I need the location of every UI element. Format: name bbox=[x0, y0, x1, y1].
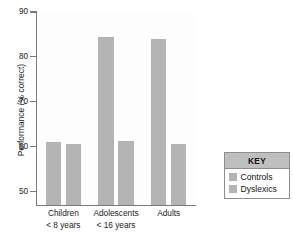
y-tick-label: 70 bbox=[10, 98, 28, 106]
bar-controls-0 bbox=[46, 142, 62, 205]
y-tick-mark bbox=[30, 146, 37, 147]
y-tick-label: 60 bbox=[10, 143, 28, 151]
legend-swatch-icon bbox=[229, 173, 237, 181]
x-axis-label-line1: Adults bbox=[157, 208, 180, 218]
bar-group-container bbox=[37, 12, 195, 205]
legend-label: Dyslexics bbox=[241, 184, 277, 194]
y-tick-label: 90 bbox=[10, 8, 28, 16]
bar-dyslexics-2 bbox=[171, 144, 187, 205]
x-axis-label-line2: < 16 years bbox=[71, 220, 161, 232]
legend-box: KEY ControlsDyslexics bbox=[224, 152, 290, 199]
y-tick-mark bbox=[30, 101, 37, 102]
legend-label: Controls bbox=[241, 172, 273, 182]
bar-controls-1 bbox=[98, 37, 114, 205]
x-axis-label-2: Adults bbox=[124, 208, 214, 220]
y-tick-mark bbox=[30, 191, 37, 192]
x-axis-line bbox=[36, 205, 196, 206]
y-tick-mark bbox=[30, 56, 37, 57]
x-axis-labels: Children< 8 yearsAdolescents< 16 yearsAd… bbox=[37, 208, 195, 236]
bar-controls-2 bbox=[151, 39, 167, 205]
legend-entries: ControlsDyslexics bbox=[225, 169, 289, 198]
y-tick-label: 80 bbox=[10, 53, 28, 61]
legend-row-controls: Controls bbox=[229, 172, 289, 182]
bar-dyslexics-1 bbox=[118, 141, 134, 205]
legend-title: KEY bbox=[225, 153, 289, 169]
legend-swatch-icon bbox=[229, 185, 237, 193]
bar-dyslexics-0 bbox=[66, 144, 82, 205]
bar-chart-figure: Performance (% correct) 5060708090 Child… bbox=[0, 0, 293, 236]
y-tick-mark bbox=[30, 11, 37, 12]
y-tick-label: 50 bbox=[10, 188, 28, 196]
legend-row-dyslexics: Dyslexics bbox=[229, 184, 289, 194]
